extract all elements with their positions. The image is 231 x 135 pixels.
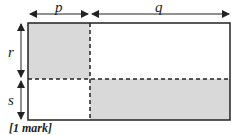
label-s: s [8,93,14,108]
label-r: r [8,45,14,60]
label-p: p [55,0,63,15]
shaded-region-bottom-right [90,79,230,120]
shaded-region-top-left [28,23,90,79]
diagram-canvas [0,0,231,135]
mark-allocation: [1 mark] [9,121,52,135]
label-q: q [155,0,163,15]
